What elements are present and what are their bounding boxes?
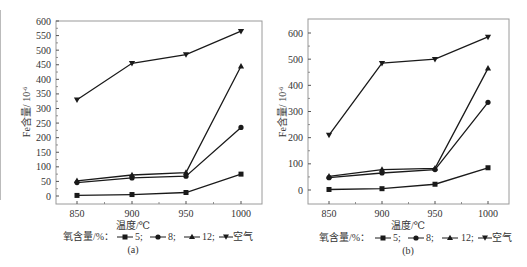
legend: 氧含量/%： 5; 8; 12; 空气	[319, 231, 512, 243]
x-tick-label: 1000	[231, 208, 251, 219]
x-tick-label: 850	[70, 208, 85, 219]
chart-panel-b: Fe含量/ 10-6 温度/℃ 氧含量/%： 5; 8; 12;	[265, 0, 527, 267]
series-空气	[326, 35, 491, 139]
svg-text:8;: 8;	[426, 232, 434, 243]
y-tick-label: 550	[36, 30, 51, 41]
legend-item-5: 5;	[375, 232, 401, 243]
line-chart-b: Fe含量/ 10-6 温度/℃ 氧含量/%： 5; 8; 12;	[265, 0, 527, 267]
triangle-down-marker-icon	[74, 98, 80, 104]
legend-item-air: 空气	[478, 231, 512, 243]
series-12	[74, 63, 244, 183]
triangle-up-marker-icon	[238, 63, 244, 69]
series-8	[326, 100, 490, 181]
y-tick-label: 300	[288, 106, 303, 117]
square-marker-icon	[380, 186, 385, 191]
y-tick-label: 50	[41, 176, 51, 187]
series-line	[329, 37, 488, 135]
x-tick-label: 850	[322, 208, 337, 219]
svg-text:Fe含量/ 10-6: Fe含量/ 10-6	[20, 87, 32, 137]
series-8	[74, 125, 243, 185]
circle-marker-icon	[413, 235, 418, 240]
triangle-down-marker-icon	[129, 61, 135, 67]
circle-marker-icon	[238, 125, 243, 130]
triangle-down-marker-icon	[326, 133, 332, 139]
svg-text:12;: 12;	[202, 231, 215, 242]
y-tick-label: 200	[288, 132, 303, 143]
circle-marker-icon	[485, 100, 490, 105]
y-tick-label: 500	[288, 54, 303, 65]
svg-text:8;: 8;	[168, 231, 176, 242]
x-axis-title: 温度/℃	[391, 219, 425, 231]
svg-text:5;: 5;	[393, 232, 401, 243]
y-tick-label: 400	[36, 74, 51, 85]
y-tick-label: 0	[298, 185, 303, 196]
y-tick-label: 500	[36, 45, 51, 56]
y-tick-label: 250	[36, 118, 51, 129]
legend-item-12: 12;	[442, 232, 474, 243]
square-marker-icon	[184, 190, 189, 195]
x-axis-title: 温度/℃	[116, 219, 150, 231]
svg-text:空气: 空气	[492, 231, 512, 243]
series-line	[329, 68, 488, 176]
y-tick-label: 100	[288, 158, 303, 169]
triangle-up-marker-icon	[189, 234, 195, 239]
legend-item-5: 5;	[117, 231, 143, 242]
y-axis-title: Fe含量/ 10-6	[20, 87, 32, 137]
square-marker-icon	[75, 193, 80, 198]
legend: 氧含量/%： 5; 8; 12; 空气	[63, 230, 253, 242]
x-tick-label: 900	[125, 208, 140, 219]
svg-text:5;: 5;	[135, 231, 143, 242]
legend-item-8: 8;	[150, 231, 176, 242]
svg-text:12;: 12;	[461, 232, 474, 243]
chart-panel-a: Fe含量/ 10-6 温度/℃ 氧含量/%： 5; 8; 12;	[0, 0, 265, 267]
triangle-up-marker-icon	[447, 235, 453, 240]
square-marker-icon	[381, 236, 386, 241]
square-marker-icon	[433, 182, 438, 187]
x-tick-label: 950	[428, 208, 443, 219]
line-chart-a: Fe含量/ 10-6 温度/℃ 氧含量/%： 5; 8; 12;	[0, 0, 265, 267]
y-tick-label: 600	[288, 28, 303, 39]
y-tick-label: 450	[36, 59, 51, 70]
x-tick-label: 1000	[478, 208, 498, 219]
x-tick-label: 950	[179, 208, 194, 219]
svg-text:Fe含量/ 10-6: Fe含量/ 10-6	[276, 87, 288, 137]
panel-label: (a)	[127, 244, 138, 256]
y-tick-label: 100	[36, 161, 51, 172]
panel-label: (b)	[402, 245, 414, 257]
y-axis-title: Fe含量/ 10-6	[276, 87, 288, 137]
square-marker-icon	[327, 187, 332, 192]
y-tick-label: 600	[36, 16, 51, 27]
square-marker-icon	[123, 235, 128, 240]
square-marker-icon	[486, 165, 491, 170]
legend-title: 氧含量/%：	[319, 231, 370, 243]
y-tick-label: 200	[36, 132, 51, 143]
y-tick-label: 150	[36, 147, 51, 158]
x-tick-label: 900	[375, 208, 390, 219]
legend-title: 氧含量/%：	[63, 230, 114, 242]
square-marker-icon	[239, 172, 244, 177]
series-12	[326, 65, 491, 179]
series-空气	[74, 29, 244, 103]
y-tick-label: 0	[46, 191, 51, 202]
legend-item-8: 8;	[408, 232, 434, 243]
series-5	[75, 172, 244, 198]
square-marker-icon	[130, 192, 135, 197]
legend-item-12: 12;	[184, 231, 215, 242]
series-line	[77, 31, 241, 100]
triangle-up-marker-icon	[485, 65, 491, 71]
y-tick-label: 300	[36, 103, 51, 114]
legend-item-air: 空气	[219, 230, 253, 242]
circle-marker-icon	[155, 234, 160, 239]
y-tick-label: 350	[36, 88, 51, 99]
svg-text:空气: 空气	[233, 230, 253, 242]
y-tick-label: 400	[288, 80, 303, 91]
